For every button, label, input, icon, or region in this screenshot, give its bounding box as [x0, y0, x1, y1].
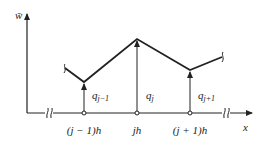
node-j-plus-1	[188, 111, 192, 115]
x-axis-label: x	[242, 121, 248, 133]
q-j-minus-1-label: qj−1	[92, 89, 109, 103]
piecewise-linear-curve	[65, 39, 222, 82]
node-label-j-plus-1: (j + 1)h	[173, 124, 208, 137]
axis-break-left-icon	[45, 108, 53, 118]
q-j-plus-1-label: qj+1	[198, 89, 215, 103]
curve-break-right-icon	[222, 52, 223, 62]
node-label-j-minus-1: (j − 1)h	[67, 124, 102, 137]
node-j	[135, 111, 139, 115]
node-label-j: jh	[131, 124, 142, 136]
curve-break-left-icon	[64, 64, 65, 73]
y-axis-label: w̄	[15, 9, 23, 21]
piecewise-linear-diagram: w̄ x qj−1 qj qj+1 (j − 1)h jh (j + 1)h	[0, 0, 266, 143]
axis-break-right-icon	[222, 108, 230, 118]
node-j-minus-1	[82, 111, 86, 115]
q-j-label: qj	[146, 89, 155, 103]
